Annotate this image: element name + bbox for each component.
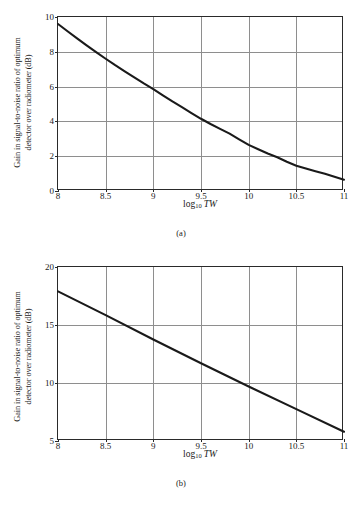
x-axis-tick-mark [344, 189, 345, 192]
panel-caption-a: (a) [0, 228, 362, 238]
figure-panel-a: Gain in signal-to-noise ratio of optimum… [0, 0, 362, 254]
x-axis-title-subscript: 10 [195, 452, 202, 459]
y-axis-tick-label: 0 [50, 187, 55, 196]
x-axis-title-a: log10TW [57, 199, 343, 209]
x-axis-tick-mark [344, 439, 345, 442]
x-axis-title-base: log [183, 199, 195, 209]
x-axis-title-base: log [183, 449, 195, 459]
y-axis-title-b: Gain in signal-to-noise ratio of optimum… [13, 264, 34, 450]
y-axis-tick-label: 4 [50, 117, 55, 126]
x-axis-title-variable: TW [204, 449, 217, 459]
y-axis-title-line2: detector over radiometer (dB) [23, 10, 34, 196]
x-axis-title-b: log10TW [57, 449, 343, 459]
plot-area-b: 510152088.599.51010.511 [57, 266, 343, 440]
plot-panel-b: Gain in signal-to-noise ratio of optimum… [0, 254, 362, 469]
x-axis-title-variable: TW [204, 199, 217, 209]
y-axis-title-line1: Gain in signal-to-noise ratio of optimum [13, 10, 24, 196]
y-axis-tick-label: 20 [45, 263, 54, 272]
y-axis-tick-label: 5 [50, 437, 55, 446]
y-axis-title-a: Gain in signal-to-noise ratio of optimum… [13, 10, 34, 196]
y-axis-title-line2: detector over radiometer (dB) [23, 264, 34, 450]
y-axis-title-line1: Gain in signal-to-noise ratio of optimum [13, 264, 24, 450]
y-axis-tick-label: 15 [45, 321, 54, 330]
data-series-b [58, 267, 344, 441]
y-axis-tick-label: 2 [50, 152, 55, 161]
y-axis-tick-label: 8 [50, 47, 55, 56]
y-axis-tick-label: 6 [50, 82, 55, 91]
plot-area-a: 024681088.599.51010.511 [57, 16, 343, 190]
plot-panel-a: Gain in signal-to-noise ratio of optimum… [0, 0, 362, 215]
y-axis-tick-label: 10 [45, 13, 54, 22]
y-axis-tick-label: 10 [45, 379, 54, 388]
x-axis-title-subscript: 10 [195, 202, 202, 209]
panel-caption-b: (b) [0, 478, 362, 488]
data-series-a [58, 17, 344, 191]
figure-panel-b: Gain in signal-to-noise ratio of optimum… [0, 254, 362, 508]
